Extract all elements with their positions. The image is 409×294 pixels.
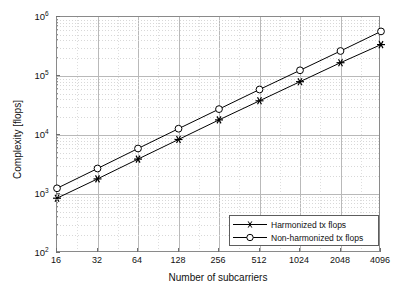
- x-tick: [178, 248, 179, 252]
- x-tick-label: 4096: [370, 255, 390, 265]
- x-tick: [137, 248, 138, 252]
- data-point-star-marker: [134, 156, 142, 163]
- y-minor-tick: [56, 34, 58, 35]
- x-tick: [299, 248, 300, 252]
- y-minor-tick: [56, 202, 58, 203]
- y-minor-tick: [56, 81, 58, 82]
- y-minor-tick: [56, 98, 58, 99]
- x-tick-label: 512: [251, 255, 266, 265]
- data-point-star-marker: [175, 136, 183, 143]
- y-minor-tick: [56, 19, 58, 20]
- figure-log-log-complexity-chart: 163264128256512102420484096 102 103 104 …: [0, 0, 409, 294]
- y-tick-label: 105: [0, 69, 54, 81]
- y-minor-tick: [56, 165, 58, 166]
- y-tick: [56, 134, 60, 135]
- y-minor-tick: [56, 88, 58, 89]
- data-point-star-marker: [296, 78, 304, 85]
- data-point-star-marker: [337, 59, 345, 66]
- data-point-star-marker: [94, 175, 102, 182]
- data-point-circle-marker: [378, 28, 385, 35]
- legend-label-harmonized: Harmonized tx flops: [267, 220, 346, 230]
- legend-item-non-harmonized: Non-harmonized tx flops: [230, 231, 378, 244]
- x-tick-label: 128: [170, 255, 185, 265]
- y-minor-tick: [56, 211, 58, 212]
- x-tick: [340, 248, 341, 252]
- legend-marker-star-icon: [233, 218, 267, 231]
- y-minor-tick: [56, 25, 58, 26]
- y-minor-tick: [56, 143, 58, 144]
- y-minor-tick: [56, 29, 58, 30]
- y-minor-tick: [56, 175, 58, 176]
- y-tick: [56, 75, 60, 76]
- data-point-circle-marker: [54, 185, 61, 192]
- data-point-star-marker: [377, 41, 385, 48]
- x-tick-label: 2048: [330, 255, 350, 265]
- y-minor-tick: [56, 157, 58, 158]
- y-axis-title: Complexity [flops]: [12, 50, 23, 230]
- x-tick-label: 64: [132, 255, 142, 265]
- y-minor-tick: [56, 93, 58, 94]
- y-minor-tick: [56, 234, 58, 235]
- y-minor-tick: [56, 116, 58, 117]
- x-tick: [380, 248, 381, 252]
- legend-label-non-harmonized: Non-harmonized tx flops: [267, 233, 363, 243]
- y-minor-tick: [56, 106, 58, 107]
- y-minor-tick: [56, 224, 58, 225]
- x-tick: [218, 248, 219, 252]
- series-line-0: [57, 45, 381, 199]
- y-minor-tick: [56, 22, 58, 23]
- data-point-circle-marker: [337, 48, 344, 55]
- data-point-circle-marker: [216, 106, 223, 113]
- y-tick-label: 106: [0, 10, 54, 22]
- y-minor-tick: [56, 84, 58, 85]
- y-tick: [56, 16, 60, 17]
- y-tick: [56, 252, 60, 253]
- data-point-circle-marker: [256, 86, 263, 93]
- data-point-circle-marker: [94, 165, 101, 172]
- y-tick-label: 104: [0, 128, 54, 140]
- y-tick-label: 102: [0, 246, 54, 258]
- y-tick: [56, 193, 60, 194]
- y-minor-tick: [56, 78, 58, 79]
- y-minor-tick: [56, 57, 58, 58]
- legend-marker-circle-icon: [233, 231, 267, 244]
- y-minor-tick: [56, 199, 58, 200]
- data-point-circle-marker: [297, 67, 304, 74]
- y-minor-tick: [56, 39, 58, 40]
- y-minor-tick: [56, 152, 58, 153]
- x-tick-label: 256: [210, 255, 225, 265]
- x-tick-label: 1024: [289, 255, 309, 265]
- data-point-star-marker: [215, 116, 223, 123]
- x-tick-label: 32: [92, 255, 102, 265]
- y-minor-tick: [56, 196, 58, 197]
- x-tick: [259, 248, 260, 252]
- y-tick-label: 103: [0, 187, 54, 199]
- y-minor-tick: [56, 216, 58, 217]
- data-point-circle-marker: [135, 145, 142, 152]
- y-minor-tick: [56, 47, 58, 48]
- x-tick: [97, 248, 98, 252]
- data-point-star-marker: [256, 97, 264, 104]
- y-minor-tick: [56, 206, 58, 207]
- legend-item-harmonized: Harmonized tx flops: [230, 218, 378, 231]
- y-minor-tick: [56, 137, 58, 138]
- x-axis-title: Number of subcarriers: [56, 272, 380, 283]
- data-point-circle-marker: [175, 125, 182, 132]
- legend: Harmonized tx flops Non-harmonized tx fl…: [229, 215, 379, 246]
- y-minor-tick: [56, 140, 58, 141]
- y-minor-tick: [56, 147, 58, 148]
